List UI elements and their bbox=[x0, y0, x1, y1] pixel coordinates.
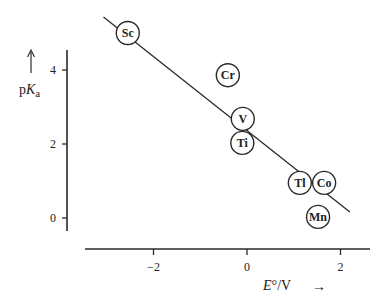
point-label: V bbox=[238, 112, 247, 126]
data-point-tl: Tl bbox=[288, 171, 311, 194]
svg-text:pKa: pKa bbox=[19, 82, 40, 99]
data-point-co: Co bbox=[313, 171, 336, 194]
point-label: Mn bbox=[309, 210, 327, 224]
y-label-prefix: p bbox=[19, 82, 26, 97]
y-label-sub: a bbox=[35, 87, 40, 99]
data-point-mn: Mn bbox=[307, 205, 330, 228]
point-label: Cr bbox=[221, 68, 236, 82]
x-axis-label: E°/V → bbox=[262, 278, 326, 294]
x-arrow-icon: → bbox=[312, 279, 326, 294]
svg-text:E°/V: E°/V bbox=[262, 278, 291, 293]
data-point-v: V bbox=[231, 107, 254, 130]
data-point-cr: Cr bbox=[216, 64, 239, 87]
point-label: Sc bbox=[122, 26, 135, 40]
point-label: Co bbox=[317, 176, 332, 190]
point-label: Tl bbox=[294, 176, 306, 190]
y-tick-label: 2 bbox=[50, 137, 56, 151]
pka-vs-potential-chart: 024 −202 pKa E°/V → ScCrVTiTlCoMn bbox=[0, 0, 389, 307]
data-point-ti: Ti bbox=[231, 131, 254, 154]
y-label-main: K bbox=[25, 82, 36, 97]
data-point-sc: Sc bbox=[116, 22, 139, 45]
x-ticks: −202 bbox=[147, 249, 343, 274]
y-ticks: 024 bbox=[50, 63, 67, 225]
x-label-rest: °/V bbox=[272, 278, 292, 293]
x-tick-label: −2 bbox=[147, 260, 160, 274]
x-tick-label: 0 bbox=[244, 260, 250, 274]
y-axis-label: pKa bbox=[19, 50, 40, 99]
x-tick-label: 2 bbox=[338, 260, 344, 274]
y-tick-label: 0 bbox=[50, 211, 56, 225]
point-label: Ti bbox=[237, 136, 249, 150]
x-label-main: E bbox=[262, 278, 272, 293]
y-tick-label: 4 bbox=[50, 63, 56, 77]
